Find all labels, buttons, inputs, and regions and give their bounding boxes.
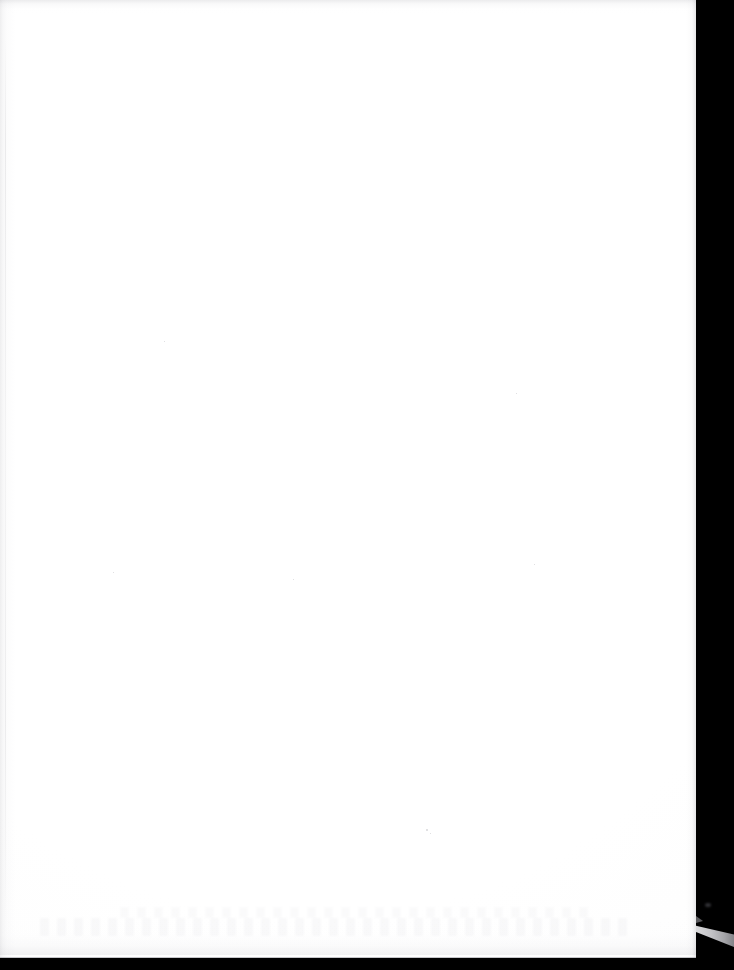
- scanned-paper-sheet: [0, 0, 696, 958]
- bleed-through-ghost-line-upper: [120, 907, 590, 918]
- left-edge-streak: [0, 0, 16, 958]
- dust-speck: [534, 564, 535, 565]
- scanned-page-canvas: [0, 0, 734, 970]
- paper-surface-tone: [0, 0, 696, 958]
- scanner-backing-band: [695, 0, 734, 970]
- bottom-edge-scan-noise: [0, 921, 696, 955]
- dust-speck: [426, 829, 428, 831]
- right-page-edge-shadow: [686, 0, 696, 958]
- dust-speck: [293, 579, 294, 580]
- bottom-page-edge-line: [0, 957, 696, 958]
- top-edge-scan-noise: [0, 0, 696, 14]
- dust-speck: [430, 833, 431, 834]
- dust-speck: [164, 341, 165, 342]
- dust-speck: [516, 393, 517, 394]
- dust-speck: [113, 572, 114, 573]
- scanner-smudge: [705, 903, 711, 907]
